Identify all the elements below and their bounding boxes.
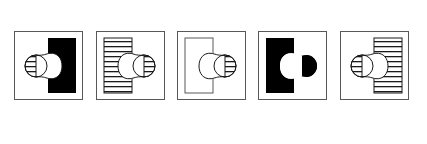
answer-option-row: a b bbox=[0, 0, 427, 144]
option-a-panel[interactable]: a bbox=[14, 31, 83, 100]
option-d-artwork bbox=[258, 31, 327, 100]
option-c-label: c bbox=[177, 143, 246, 144]
option-e-panel[interactable]: e bbox=[340, 31, 409, 100]
option-d-peanut-white-front bbox=[280, 53, 302, 79]
option-c-peanut-white bbox=[199, 53, 225, 79]
option-e-peanut-white bbox=[362, 53, 388, 79]
option-e-label: e bbox=[340, 143, 409, 144]
option-d-panel[interactable]: d bbox=[258, 31, 327, 100]
figure-root: a b bbox=[0, 0, 427, 144]
option-b-peanut-white bbox=[118, 53, 144, 79]
option-b-panel[interactable]: b bbox=[96, 31, 165, 100]
option-a-peanut-white bbox=[36, 53, 62, 79]
option-c-artwork bbox=[177, 31, 246, 100]
option-d-label: d bbox=[258, 143, 327, 144]
option-e-artwork bbox=[340, 31, 409, 100]
option-b-label: b bbox=[96, 143, 165, 144]
option-a-label: a bbox=[14, 143, 83, 144]
option-c-panel[interactable]: c bbox=[177, 31, 246, 100]
option-b-artwork bbox=[96, 31, 165, 100]
option-a-artwork bbox=[14, 31, 83, 100]
